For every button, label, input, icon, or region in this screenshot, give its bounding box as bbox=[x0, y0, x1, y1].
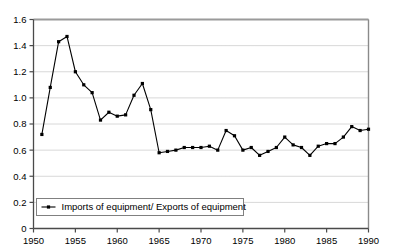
data-point-marker bbox=[308, 154, 311, 157]
data-point-marker bbox=[74, 70, 77, 73]
y-axis: 00.20.40.60.81.01.21.41.6 bbox=[13, 14, 33, 234]
data-point-marker bbox=[216, 149, 219, 152]
data-point-marker bbox=[166, 150, 169, 153]
data-point-marker bbox=[141, 82, 144, 85]
y-axis-tick-label: 1.0 bbox=[13, 92, 26, 103]
chart-canvas: 00.20.40.60.81.01.21.41.6195019551960196… bbox=[0, 0, 407, 250]
data-point-marker bbox=[266, 150, 269, 153]
data-point-marker bbox=[292, 143, 295, 146]
x-axis-tick-label: 1990 bbox=[358, 235, 379, 246]
data-point-marker bbox=[325, 142, 328, 145]
data-point-marker bbox=[342, 135, 345, 138]
data-point-marker bbox=[174, 149, 177, 152]
y-axis-tick-label: 0.2 bbox=[13, 197, 26, 208]
legend-marker-point bbox=[47, 205, 50, 208]
data-point-marker bbox=[208, 145, 211, 148]
data-point-marker bbox=[99, 118, 102, 121]
data-point-marker bbox=[82, 83, 85, 86]
data-point-marker bbox=[107, 111, 110, 114]
data-point-marker bbox=[49, 86, 52, 89]
data-point-marker bbox=[183, 146, 186, 149]
x-axis-tick-label: 1970 bbox=[190, 235, 211, 246]
data-point-marker bbox=[225, 129, 228, 132]
data-point-marker bbox=[191, 146, 194, 149]
x-axis-tick-label: 1975 bbox=[232, 235, 253, 246]
data-point-marker bbox=[250, 146, 253, 149]
y-axis-tick-label: 0.4 bbox=[13, 171, 26, 182]
x-axis-tick-label: 1955 bbox=[65, 235, 86, 246]
data-point-marker bbox=[233, 134, 236, 137]
data-point-marker bbox=[283, 135, 286, 138]
data-point-marker bbox=[241, 149, 244, 152]
x-axis: 195019551960196519701975198019851990 bbox=[23, 229, 379, 246]
data-point-marker bbox=[359, 129, 362, 132]
y-axis-tick-label: 0.6 bbox=[13, 145, 26, 156]
data-point-marker bbox=[124, 113, 127, 116]
data-point-marker bbox=[65, 35, 68, 38]
x-axis-tick-label: 1950 bbox=[23, 235, 44, 246]
data-point-marker bbox=[158, 151, 161, 154]
data-point-marker bbox=[367, 128, 370, 131]
y-axis-tick-label: 1.4 bbox=[13, 40, 26, 51]
data-point-marker bbox=[91, 91, 94, 94]
data-point-marker bbox=[199, 146, 202, 149]
data-point-marker bbox=[275, 146, 278, 149]
y-axis-tick-label: 1.6 bbox=[13, 14, 26, 25]
y-axis-tick-label: 0 bbox=[21, 223, 26, 234]
line-chart: 00.20.40.60.81.01.21.41.6195019551960196… bbox=[0, 0, 407, 250]
x-axis-tick-label: 1965 bbox=[149, 235, 170, 246]
data-point-marker bbox=[57, 40, 60, 43]
legend-label: Imports of equipment/ Exports of equipme… bbox=[62, 201, 247, 212]
data-point-marker bbox=[132, 94, 135, 97]
x-axis-tick-label: 1985 bbox=[316, 235, 337, 246]
data-point-marker bbox=[300, 146, 303, 149]
x-axis-tick-label: 1960 bbox=[107, 235, 128, 246]
data-point-marker bbox=[350, 125, 353, 128]
data-point-marker bbox=[333, 142, 336, 145]
y-axis-tick-label: 0.8 bbox=[13, 118, 26, 129]
y-axis-tick-label: 1.2 bbox=[13, 66, 26, 77]
data-point-marker bbox=[317, 145, 320, 148]
data-point-marker bbox=[116, 115, 119, 118]
x-axis-tick-label: 1980 bbox=[274, 235, 295, 246]
legend: Imports of equipment/ Exports of equipme… bbox=[37, 199, 247, 216]
data-point-marker bbox=[40, 133, 43, 136]
data-point-marker bbox=[258, 154, 261, 157]
data-point-marker bbox=[149, 108, 152, 111]
